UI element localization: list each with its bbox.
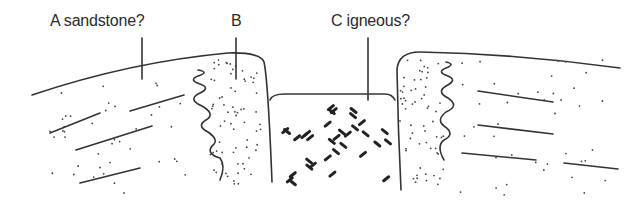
- cross-section-drawing: [0, 0, 640, 212]
- igneous-top: [270, 94, 395, 100]
- right-wavy-contact: [440, 62, 454, 160]
- left-wavy-contact: [193, 70, 223, 180]
